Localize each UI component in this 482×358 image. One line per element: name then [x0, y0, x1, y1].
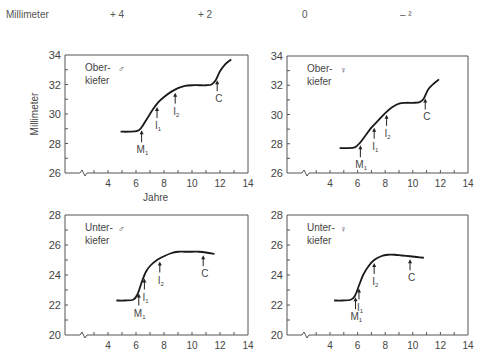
- annotation-label: M1: [137, 144, 149, 156]
- y-tick-label: 26: [49, 239, 61, 251]
- y-tick-label: 26: [271, 167, 283, 179]
- x-axis-with-break: [65, 170, 248, 176]
- arrow-up-icon: [140, 130, 144, 134]
- x-tick-label: 4: [105, 340, 111, 351]
- arrow-up-icon: [372, 263, 376, 267]
- y-tick-label: 28: [49, 209, 61, 221]
- x-tick-label: 10: [407, 178, 419, 189]
- annotation-label: I2: [173, 106, 180, 118]
- female-symbol-icon: ♀: [340, 65, 347, 75]
- annotation-label: I1: [142, 292, 149, 304]
- annotation-label: I2: [385, 128, 392, 140]
- x-tick-label: 8: [382, 178, 388, 189]
- arrow-up-icon: [158, 262, 162, 266]
- x-axis-with-break: [65, 332, 248, 338]
- annotation-label: C: [201, 268, 208, 279]
- annotation-c: C: [201, 255, 208, 279]
- male-symbol-icon: ♂: [118, 224, 125, 234]
- annotation-label: I1: [357, 302, 364, 314]
- arrow-up-icon: [358, 145, 362, 149]
- x-tick-label: 14: [242, 340, 254, 351]
- female-symbol-icon: ♀: [340, 224, 347, 234]
- arrow-up-icon: [385, 115, 389, 119]
- chart-panel-top-left: 4681012142628303234Ober-kiefer♂M1I1I2CMi…: [29, 49, 254, 203]
- y-tick-label: 24: [271, 269, 283, 281]
- x-tick-label: 10: [186, 340, 198, 351]
- chart-panel-bottom-right: 4681012142022242628Unter-kiefer♀M1I1I2C: [271, 209, 474, 351]
- y-tick-label: 20: [271, 329, 283, 341]
- x-tick-label: 12: [214, 340, 226, 351]
- x-tick-label: 6: [355, 178, 361, 189]
- y-tick-label: 28: [49, 138, 61, 150]
- growth-curve: [116, 252, 214, 301]
- chart-title-line-2: kiefer: [85, 235, 110, 246]
- x-tick-label: 12: [214, 178, 226, 189]
- y-tick-label: 32: [271, 79, 283, 91]
- annotation-label: C: [408, 272, 415, 283]
- annotation-label: I2: [372, 276, 379, 288]
- chart-title-line-1: Unter-: [307, 222, 335, 233]
- annotation-c: C: [408, 259, 415, 283]
- annotation-label: I2: [158, 275, 165, 287]
- x-tick-label: 10: [186, 178, 198, 189]
- annotation-c: C: [423, 98, 430, 122]
- annotation-i1: I1: [372, 128, 379, 153]
- x-tick-label: 14: [462, 178, 474, 189]
- arrow-up-icon: [155, 107, 159, 111]
- chart-title-line-2: kiefer: [307, 76, 332, 87]
- y-tick-label: 32: [49, 79, 61, 91]
- y-axis-label: Millimeter: [29, 92, 40, 135]
- x-tick-label: 4: [105, 178, 111, 189]
- arrow-up-icon: [408, 259, 412, 263]
- chart-title-line-1: Unter-: [85, 222, 113, 233]
- x-tick-label: 12: [435, 340, 447, 351]
- annotation-label: I1: [155, 120, 162, 132]
- x-tick-label: 8: [161, 178, 167, 189]
- x-tick-label: 6: [355, 340, 361, 351]
- y-tick-label: 34: [49, 49, 61, 61]
- y-tick-label: 28: [271, 209, 283, 221]
- annotation-i2: I2: [372, 263, 379, 288]
- annotation-label: I1: [372, 141, 379, 153]
- y-tick-label: 20: [49, 329, 61, 341]
- x-tick-label: 14: [462, 340, 474, 351]
- chart-title-line-1: Ober-: [85, 62, 111, 73]
- annotation-i1: I1: [142, 279, 149, 304]
- x-tick-label: 8: [161, 340, 167, 351]
- chart-frame: [65, 215, 248, 335]
- annotation-label: M1: [134, 308, 146, 320]
- y-tick-label: 22: [49, 299, 61, 311]
- x-tick-label: 14: [242, 178, 254, 189]
- annotation-i1: I1: [155, 107, 162, 132]
- annotation-i1: I1: [357, 289, 364, 314]
- x-tick-label: 6: [133, 178, 139, 189]
- x-axis-label: Jahre: [143, 192, 168, 203]
- chart-title-line-2: kiefer: [307, 235, 332, 246]
- annotation-label: M1: [355, 159, 367, 171]
- x-tick-label: 8: [382, 340, 388, 351]
- y-tick-label: 30: [49, 108, 61, 120]
- y-tick-label: 30: [271, 109, 283, 121]
- annotation-i2: I2: [158, 262, 165, 287]
- chart-frame: [287, 215, 468, 335]
- y-tick-label: 28: [271, 138, 283, 150]
- arrow-up-icon: [173, 93, 177, 97]
- y-tick-label: 26: [49, 167, 61, 179]
- y-tick-label: 24: [49, 269, 61, 281]
- y-tick-label: 22: [271, 299, 283, 311]
- male-symbol-icon: ♂: [118, 64, 125, 74]
- annotation-m1: M1: [355, 145, 367, 171]
- annotation-c: C: [215, 80, 222, 104]
- annotation-i2: I2: [385, 115, 392, 140]
- arrow-up-icon: [372, 128, 376, 132]
- annotation-label: C: [215, 93, 222, 104]
- annotation-label: C: [423, 111, 430, 122]
- annotation-i2: I2: [173, 93, 180, 118]
- chart-title-line-1: Ober-: [307, 63, 333, 74]
- chart-panel-top-right: 4681012142628303234Ober-kiefer♀M1I1I2C: [271, 50, 474, 189]
- x-tick-label: 12: [435, 178, 447, 189]
- chart-title-line-2: kiefer: [85, 75, 110, 86]
- x-tick-label: 4: [327, 340, 333, 351]
- x-tick-label: 6: [133, 340, 139, 351]
- arrow-up-icon: [201, 255, 205, 259]
